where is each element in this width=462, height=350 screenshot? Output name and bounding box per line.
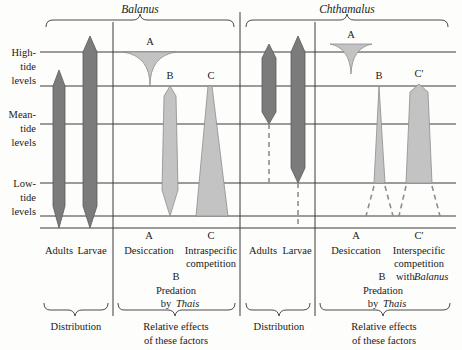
- chthamalus-factor-a-shape: [330, 44, 372, 74]
- figure-canvas: Balanus Chthamalus High- tide levels Mea…: [0, 0, 462, 350]
- bottom-brace-balanus-distribution: [44, 303, 108, 316]
- species-title-chthamalus: Chthamalus: [319, 3, 375, 15]
- chthamalus-adults-bar: [262, 44, 276, 124]
- chthamalus-label-predation-l2: by: [368, 298, 379, 309]
- balanus-factor-a-letter: A: [146, 36, 154, 47]
- species-title-balanus: Balanus: [121, 3, 159, 15]
- chthamalus-factor-c-dash-right: [432, 186, 440, 216]
- balanus-adults-bar: [53, 70, 65, 228]
- tide-label-high: High- tide levels: [12, 47, 37, 86]
- chthamalus-factor-c-shape: [406, 84, 432, 183]
- balanus-label-intraspecific-l1: Intraspecific: [185, 245, 238, 256]
- tide-label-high-l1: High-: [12, 47, 37, 58]
- balanus-bottom-letter-c: C: [207, 230, 214, 241]
- balanus-larvae-bar: [83, 36, 97, 228]
- tide-label-mean-l2: tide: [20, 123, 36, 134]
- top-brace-chthamalus: [246, 14, 448, 27]
- balanus-factor-b-letter: B: [166, 70, 173, 81]
- balanus-factor-c-shape: [196, 86, 228, 216]
- chthamalus-factor-b-shape: [374, 86, 385, 183]
- chthamalus-factor-b-letter: B: [375, 70, 382, 81]
- chthamalus-bottom-letter-b: B: [378, 271, 385, 282]
- chthamalus-label-interspecific-l1: Interspecific: [393, 245, 446, 256]
- balanus-label-larvae: Larvae: [77, 245, 106, 256]
- balanus-factor-b-shape: [162, 86, 178, 216]
- top-brace-balanus: [46, 14, 234, 27]
- brace-label-balanus-relative-l1: Relative effects: [143, 321, 208, 332]
- balanus-bottom-letter-b: B: [172, 271, 179, 282]
- bottom-brace-chthamalus-distribution: [246, 303, 310, 316]
- chthamalus-label-interspecific-balanus: Balanus: [414, 271, 448, 282]
- balanus-label-adults: Adults: [45, 245, 73, 256]
- chthamalus-factor-a-letter: A: [347, 29, 355, 40]
- chthamalus-label-adults: Adults: [249, 245, 277, 256]
- tide-label-mean-l3: levels: [12, 137, 37, 148]
- balanus-factor-c-letter: C: [207, 70, 214, 81]
- chthamalus-larvae-bar: [291, 36, 305, 183]
- balanus-label-predation-l2: by: [161, 298, 172, 309]
- chthamalus-label-desiccation: Desiccation: [331, 245, 381, 256]
- chthamalus-factor-c-dash-left: [399, 186, 406, 216]
- chthamalus-factor-c-letter: C': [415, 68, 424, 79]
- chthamalus-label-predation-l1: Predation: [363, 285, 404, 296]
- chthamalus-label-interspecific-l2: competition: [394, 258, 445, 269]
- balanus-label-predation-thais: Thais: [176, 298, 199, 309]
- brace-label-balanus-distribution: Distribution: [51, 321, 103, 332]
- chthamalus-bottom-letter-c: C': [415, 230, 424, 241]
- tide-label-high-l3: levels: [12, 75, 37, 86]
- tide-label-high-l2: tide: [20, 61, 36, 72]
- balanus-bottom-letter-a: A: [145, 230, 153, 241]
- chthamalus-label-larvae: Larvae: [282, 245, 311, 256]
- tide-label-mean-l1: Mean-: [9, 109, 37, 120]
- tide-label-low-l1: Low-: [13, 178, 36, 189]
- chthamalus-label-predation-thais: Thais: [383, 298, 406, 309]
- chthamalus-factor-b-dash-right: [385, 186, 393, 216]
- brace-label-chthamalus-relative-l1: Relative effects: [351, 321, 416, 332]
- barnacle-zonation-figure: Balanus Chthamalus High- tide levels Mea…: [0, 0, 462, 350]
- chthamalus-label-interspecific-l3: with: [396, 271, 415, 282]
- chthamalus-factor-b-dash-left: [366, 186, 374, 216]
- balanus-label-desiccation: Desiccation: [124, 245, 174, 256]
- brace-label-chthamalus-distribution: Distribution: [254, 321, 306, 332]
- brace-label-balanus-relative-l2: of these factors: [144, 335, 208, 346]
- tide-label-mean: Mean- tide levels: [9, 109, 37, 148]
- balanus-label-intraspecific-l2: competition: [186, 258, 237, 269]
- chthamalus-bottom-letter-a: A: [352, 230, 360, 241]
- tide-label-low: Low- tide levels: [12, 178, 37, 217]
- tide-label-low-l2: tide: [20, 192, 36, 203]
- tide-label-low-l3: levels: [12, 206, 37, 217]
- brace-label-chthamalus-relative-l2: of these factors: [352, 335, 416, 346]
- balanus-label-predation-l1: Predation: [156, 285, 197, 296]
